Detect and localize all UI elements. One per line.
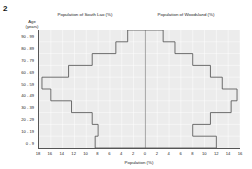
figure-number: 2 bbox=[3, 4, 7, 13]
figure-container: 2 Population of South Lao (%) Population… bbox=[0, 0, 252, 169]
y-tick-label: 70 - 79 bbox=[21, 57, 34, 62]
y-axis-label-line2: (years) bbox=[20, 24, 44, 29]
y-tick-label: 20 - 29 bbox=[21, 117, 34, 122]
y-tick-label: 40 - 49 bbox=[21, 93, 34, 98]
x-tick-label: 0 bbox=[144, 151, 146, 156]
x-tick-label: 2 bbox=[132, 151, 134, 156]
x-tick-label: 18 bbox=[36, 151, 41, 156]
x-tick-label: 2 bbox=[156, 151, 158, 156]
x-axis-tick-labels: 181614121086420246810121416 bbox=[38, 151, 240, 160]
x-tick-label: 16 bbox=[48, 151, 53, 156]
x-tick-label: 14 bbox=[59, 151, 64, 156]
x-tick-label: 16 bbox=[238, 151, 243, 156]
x-axis-label: Population (%) bbox=[38, 160, 240, 165]
y-tick-label: 50 - 59 bbox=[21, 81, 34, 86]
x-tick-label: 4 bbox=[120, 151, 122, 156]
x-tick-label: 4 bbox=[168, 151, 170, 156]
chart-title-right: Population of Woodsland (%) bbox=[132, 12, 240, 17]
x-tick-label: 10 bbox=[83, 151, 88, 156]
y-tick-label: 60 - 69 bbox=[21, 69, 34, 74]
x-tick-label: 8 bbox=[191, 151, 193, 156]
y-tick-label: 90 - 99 bbox=[21, 33, 34, 38]
x-tick-label: 12 bbox=[71, 151, 76, 156]
x-tick-label: 10 bbox=[202, 151, 207, 156]
plot-area bbox=[38, 30, 240, 149]
x-tick-label: 6 bbox=[179, 151, 181, 156]
y-tick-label: 10 - 19 bbox=[21, 129, 34, 134]
x-tick-label: 12 bbox=[214, 151, 219, 156]
y-axis-label: Age (years) bbox=[20, 19, 44, 29]
y-tick-label: 30 - 39 bbox=[21, 105, 34, 110]
population-pyramid-svg bbox=[39, 30, 240, 148]
y-tick-label: 0 - 9 bbox=[26, 141, 34, 146]
y-axis-tick-labels: 90 - 9980 - 8970 - 7960 - 6950 - 5940 - … bbox=[14, 30, 36, 149]
chart-title-left: Population of South Lao (%) bbox=[38, 12, 132, 17]
x-tick-label: 14 bbox=[226, 151, 231, 156]
y-tick-label: 80 - 89 bbox=[21, 45, 34, 50]
x-tick-label: 8 bbox=[96, 151, 98, 156]
gridlines bbox=[39, 30, 240, 148]
x-tick-label: 6 bbox=[108, 151, 110, 156]
